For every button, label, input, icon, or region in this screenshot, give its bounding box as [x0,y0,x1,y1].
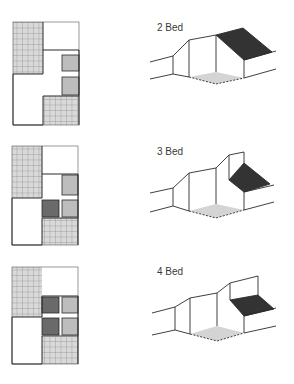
plan-grid-area-bottom [42,337,78,364]
plan-grid-area-bottom [43,96,79,125]
plan-room-light [62,297,78,313]
plan-room-dark [42,318,59,335]
plan-room-light [62,175,78,195]
plan-room-dark [42,297,59,313]
row-label-4-bed: 4 Bed [157,266,183,277]
unit-types-diagram: 2 Bed 3 Bed [0,0,294,384]
plan-room-light [62,77,79,95]
plan-room-light [62,318,78,335]
plan-3-bed [12,146,78,245]
plan-grid-area-bottom [42,218,78,245]
axonometric-4-bed [152,276,276,341]
flat-roof-terrace [230,295,274,316]
plan-room-light [62,200,78,217]
plan-room-light [62,55,79,71]
plan-4-bed [12,267,78,364]
plan-grid-area-top [13,22,43,74]
axonometric-3-bed [150,152,274,218]
floor-patch [190,326,244,341]
plan-2-bed [13,22,79,125]
plan-grid-area-top [12,267,42,317]
pitched-roof [216,28,272,60]
floor-patch [189,72,244,84]
floor-patch [189,204,244,218]
row-label-3-bed: 3 Bed [157,146,183,157]
axonometric-2-bed [150,28,276,84]
plan-room-dark [42,200,59,217]
plan-grid-area-top [12,146,42,198]
row-label-2-bed: 2 Bed [157,22,183,33]
